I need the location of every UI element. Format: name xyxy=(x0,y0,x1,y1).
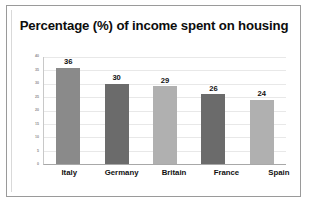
chart-inner-panel: Percentage (%) of income spent on housin… xyxy=(11,10,296,192)
bar[interactable]: 29 xyxy=(153,86,177,164)
chart-title: Percentage (%) of income spent on housin… xyxy=(12,18,296,33)
bar[interactable]: 30 xyxy=(105,84,129,164)
plot-area: 4035302520151050 3630292624 xyxy=(24,57,286,165)
y-axis-tick-label: 20 xyxy=(35,109,39,113)
bar-value-label: 36 xyxy=(64,58,72,66)
bar[interactable]: 36 xyxy=(56,68,80,164)
bar-value-label: 30 xyxy=(112,74,120,82)
x-axis-category-label: Italy xyxy=(43,168,95,177)
y-axis-tick-label: 25 xyxy=(35,96,39,100)
bar-group: 24 xyxy=(238,57,286,164)
y-axis-tick-label: 15 xyxy=(35,123,39,127)
x-axis-category-label: Germany xyxy=(95,168,147,177)
bar[interactable]: 26 xyxy=(201,94,225,164)
bar-group: 30 xyxy=(92,57,140,164)
bar[interactable]: 24 xyxy=(250,100,274,164)
x-axis-labels: ItalyGermanyBritainFranceSpain xyxy=(43,168,305,177)
bars-layer: 3630292624 xyxy=(44,57,286,164)
y-axis-tick-label: 5 xyxy=(37,150,39,154)
y-axis-tick-label: 35 xyxy=(35,69,39,73)
bar-group: 36 xyxy=(44,57,92,164)
y-axis: 4035302520151050 xyxy=(24,57,42,165)
y-axis-tick-label: 10 xyxy=(35,136,39,140)
bar-value-label: 24 xyxy=(258,90,266,98)
bar-group: 26 xyxy=(189,57,237,164)
y-axis-tick-label: 40 xyxy=(35,55,39,59)
y-axis-tick-label: 30 xyxy=(35,82,39,86)
x-axis-category-label: Britain xyxy=(148,168,200,177)
x-axis-category-label: Spain xyxy=(253,168,305,177)
x-axis-category-label: France xyxy=(200,168,252,177)
y-axis-tick-label: 0 xyxy=(37,163,39,167)
chart-frame: Percentage (%) of income spent on housin… xyxy=(6,5,301,197)
bar-group: 29 xyxy=(141,57,189,164)
bar-value-label: 26 xyxy=(209,85,217,93)
bar-value-label: 29 xyxy=(161,77,169,85)
gridlines-group: 3630292624 xyxy=(43,57,286,165)
